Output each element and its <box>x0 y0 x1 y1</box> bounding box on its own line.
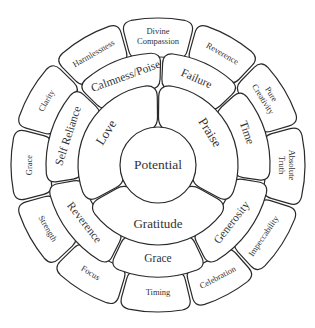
center-node: Potential <box>120 127 196 203</box>
virtue-wheel-diagram: DivineCompassionReverencePureCreativityA… <box>0 0 315 328</box>
outer-label-timing: Timing <box>146 287 171 297</box>
middle-label-grace: Grace <box>144 252 171 264</box>
center-label: Potential <box>134 157 182 172</box>
outer-label-grace: Grace <box>24 155 34 176</box>
inner-label-gratitude: Gratitude <box>133 216 182 231</box>
